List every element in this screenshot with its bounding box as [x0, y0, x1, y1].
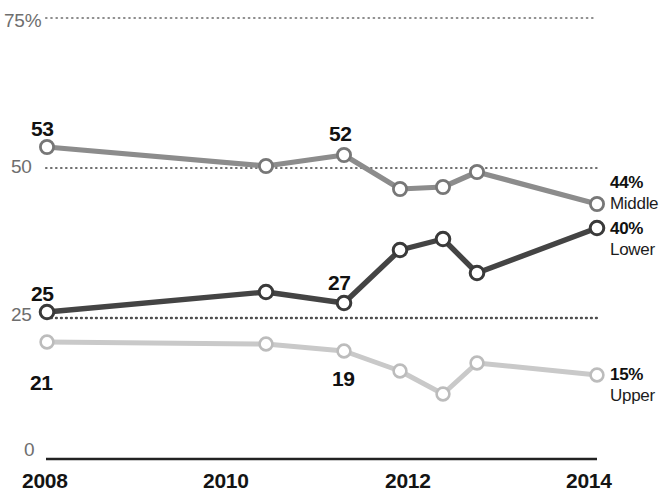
x-tick-2014: 2014 [566, 470, 612, 491]
series-middle [40, 140, 603, 210]
y-tick-0: 0 [24, 440, 34, 459]
x-tick-2010: 2010 [203, 470, 249, 491]
series-middle-line [47, 147, 597, 204]
series-middle-markers [40, 140, 603, 210]
x-tick-2008: 2008 [22, 470, 68, 491]
series-upper-line [47, 342, 597, 394]
line-chart: 75% 50 25 0 2008 2010 2012 2014 53 52 25… [0, 0, 667, 497]
data-label-middle-2008: 53 [31, 118, 54, 139]
series-lower-line [47, 228, 597, 312]
data-label-lower-2008: 25 [31, 283, 54, 304]
gridlines [46, 18, 597, 318]
series-label-lower-name: Lower [610, 241, 655, 258]
series-label-middle-value: 44% [610, 174, 643, 191]
y-tick-75: 75% [4, 11, 41, 30]
data-label-lower-2011: 27 [328, 272, 351, 293]
data-label-middle-2011: 52 [329, 123, 352, 144]
series-lower [40, 221, 604, 319]
data-label-upper-2011: 19 [332, 368, 355, 389]
series-upper [41, 336, 604, 401]
series-label-lower-value: 40% [610, 220, 643, 237]
x-tick-2012: 2012 [385, 470, 431, 491]
data-label-upper-2008: 21 [30, 372, 53, 393]
chart-plot-area [0, 0, 667, 497]
series-label-upper-name: Upper [610, 387, 655, 404]
y-tick-50: 50 [11, 157, 32, 176]
series-label-upper-value: 15% [610, 366, 643, 383]
y-tick-25: 25 [11, 305, 32, 324]
series-label-middle-name: Middle [610, 195, 658, 212]
